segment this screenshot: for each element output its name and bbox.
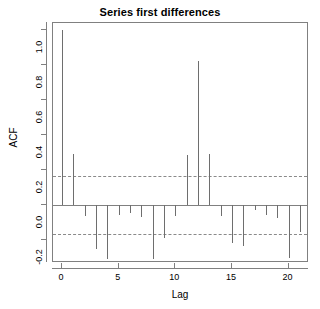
acf-spike bbox=[289, 205, 290, 258]
confidence-band-lower bbox=[53, 234, 307, 235]
acf-spike bbox=[221, 205, 222, 216]
y-axis-title: ACF bbox=[8, 108, 19, 168]
acf-spike bbox=[175, 205, 176, 216]
acf-spike bbox=[255, 205, 256, 210]
x-axis-title: Lag bbox=[52, 289, 308, 300]
y-tick-label: -0.2 bbox=[34, 237, 44, 277]
plot-area bbox=[52, 22, 308, 262]
x-tick-label: 0 bbox=[49, 272, 73, 282]
zero-reference-line bbox=[53, 205, 307, 206]
x-tick-mark bbox=[288, 263, 289, 268]
x-tick-mark bbox=[174, 263, 175, 268]
acf-spike bbox=[96, 205, 97, 249]
x-tick-label: 10 bbox=[162, 272, 186, 282]
acf-spike bbox=[164, 205, 165, 238]
acf-spike bbox=[153, 205, 154, 259]
x-tick-mark bbox=[231, 263, 232, 268]
x-tick-label: 15 bbox=[219, 272, 243, 282]
x-tick-label: 20 bbox=[276, 272, 300, 282]
x-tick-mark bbox=[118, 263, 119, 268]
acf-spike bbox=[232, 205, 233, 243]
acf-spike bbox=[209, 154, 210, 205]
x-axis-line bbox=[52, 268, 308, 269]
acf-spike bbox=[119, 205, 120, 215]
acf-spike bbox=[187, 155, 188, 205]
confidence-band-upper bbox=[53, 176, 307, 177]
acf-spike bbox=[277, 205, 278, 218]
y-tick-label: 1.0 bbox=[34, 27, 44, 67]
acf-spike bbox=[107, 205, 108, 259]
acf-spike bbox=[141, 205, 142, 216]
acf-spike bbox=[130, 205, 131, 213]
acf-spike bbox=[266, 205, 267, 215]
chart-title: Series first differences bbox=[0, 6, 320, 18]
acf-spike bbox=[198, 61, 199, 206]
acf-spike bbox=[73, 154, 74, 205]
x-tick-mark bbox=[61, 263, 62, 268]
acf-spike bbox=[300, 205, 301, 232]
acf-spike bbox=[85, 205, 86, 216]
y-axis-line bbox=[46, 22, 47, 262]
x-tick-label: 5 bbox=[106, 272, 130, 282]
acf-spike bbox=[62, 30, 63, 205]
acf-spike bbox=[243, 205, 244, 246]
acf-plot: Series first differences 1.00.80.60.40.2… bbox=[0, 0, 320, 309]
